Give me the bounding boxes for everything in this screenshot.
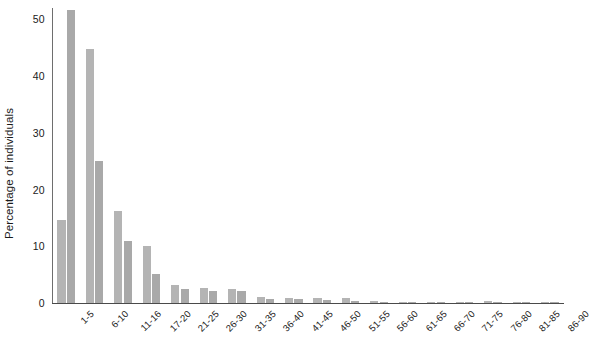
y-tick-label: 20 <box>33 184 52 196</box>
x-tick-label: 46-50 <box>338 308 364 334</box>
bar <box>200 288 208 303</box>
bar-group <box>285 0 303 303</box>
x-tick-label: 61-65 <box>423 308 449 334</box>
y-tick-label: 30 <box>33 127 52 139</box>
x-tick-label: 41-45 <box>309 308 335 334</box>
bar-group <box>484 0 502 303</box>
x-tick-label: 1-5 <box>78 308 96 326</box>
bar-group <box>143 0 161 303</box>
y-tick-label: 40 <box>33 70 52 82</box>
bar <box>171 285 179 303</box>
x-tick-label: 51-55 <box>366 308 392 334</box>
x-tick-label: 66-70 <box>451 308 477 334</box>
bar-group <box>171 0 189 303</box>
bar <box>209 291 217 303</box>
bar <box>95 161 103 303</box>
bar <box>114 211 122 303</box>
bar <box>237 291 245 303</box>
bar-group <box>541 0 559 303</box>
bar-group <box>228 0 246 303</box>
bar <box>86 49 94 303</box>
x-tick-label: 21-25 <box>195 308 221 334</box>
x-tick-label: 36-40 <box>281 308 307 334</box>
x-tick-label: 26-30 <box>224 308 250 334</box>
bar-group <box>114 0 132 303</box>
x-tick-label: 6-10 <box>108 308 130 330</box>
bar-group <box>456 0 474 303</box>
x-tick-label: 56-60 <box>395 308 421 334</box>
x-tick-label: 76-80 <box>508 308 534 334</box>
bar-group <box>513 0 531 303</box>
bar <box>57 220 65 303</box>
bar-group <box>86 0 104 303</box>
bar-group <box>399 0 417 303</box>
y-tick-label: 10 <box>33 240 52 252</box>
bar <box>181 289 189 303</box>
x-tick-label: 17-20 <box>167 308 193 334</box>
bar-group <box>342 0 360 303</box>
bar <box>152 274 160 303</box>
x-axis-ticks: 1-56-1011-1617-2021-2526-3031-3536-4041-… <box>52 303 564 347</box>
y-tick-label: 50 <box>33 13 52 25</box>
bar <box>143 246 151 303</box>
x-tick-label: 71-75 <box>480 308 506 334</box>
bar <box>228 289 236 303</box>
bar <box>67 10 75 303</box>
x-tick-label: 86-90 <box>565 308 591 334</box>
x-tick-label: 31-35 <box>252 308 278 334</box>
bar-group <box>200 0 218 303</box>
bar-group <box>257 0 275 303</box>
bar-groups <box>52 0 564 303</box>
bar-group <box>313 0 331 303</box>
bar <box>124 241 132 303</box>
y-axis-title: Percentage of individuals <box>0 0 18 347</box>
bar-group <box>427 0 445 303</box>
bar-group <box>57 0 75 303</box>
x-tick-label: 11-16 <box>138 308 163 333</box>
y-tick-label: 0 <box>39 297 52 309</box>
bar-group <box>370 0 388 303</box>
x-tick-label: 81-85 <box>537 308 563 334</box>
